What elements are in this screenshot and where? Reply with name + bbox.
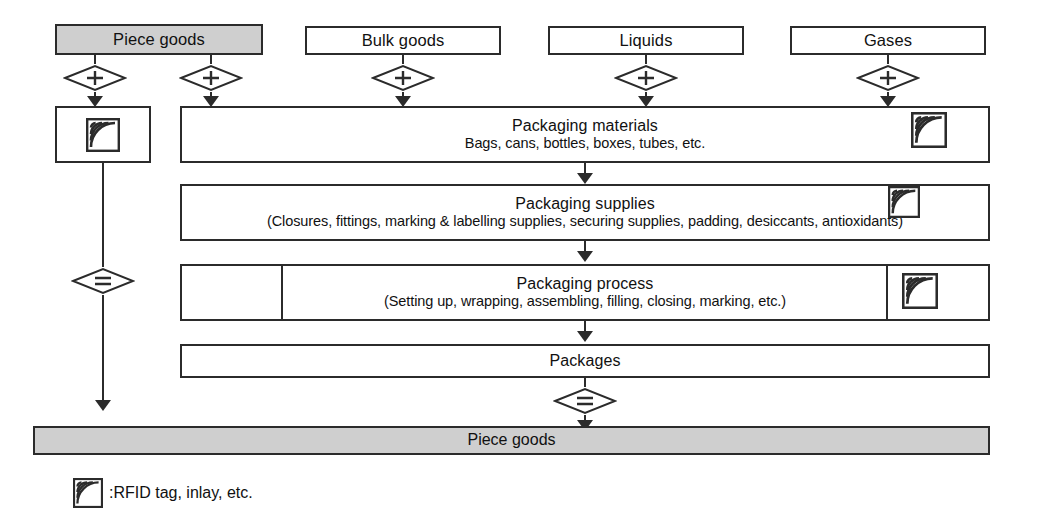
stage-subtitle-packaging-materials: Bags, cans, bottles, boxes, tubes, etc. xyxy=(465,135,705,152)
connector-packages-to-equals xyxy=(584,378,586,387)
stage-title-packaging-supplies: Packaging supplies xyxy=(515,195,655,213)
arrowhead-left-to-result xyxy=(95,400,111,411)
connector-bulk-goods-stub xyxy=(402,55,404,64)
result-bar-piece-goods[interactable]: Piece goods xyxy=(33,426,990,455)
connector-rfid-box-to-equals xyxy=(102,163,104,267)
stage-title-packaging-materials: Packaging materials xyxy=(512,117,658,135)
connector-gases-stub xyxy=(887,55,889,64)
legend-label: :RFID tag, inlay, etc. xyxy=(109,484,253,502)
operator-plus-piece-goods-right xyxy=(179,64,243,92)
stage-box-packaging-materials[interactable]: Packaging materials Bags, cans, bottles,… xyxy=(180,106,990,163)
stage-title-packages: Packages xyxy=(549,352,620,370)
rfid-tag-icon-packaging-process xyxy=(902,273,938,309)
packaging-process-divider-left xyxy=(281,264,283,321)
source-label-bulk-goods: Bulk goods xyxy=(362,31,445,50)
rfid-tag-icon-packaging-supplies xyxy=(888,186,920,218)
stage-title-packaging-process: Packaging process xyxy=(517,275,654,293)
rfid-tag-box[interactable] xyxy=(55,106,151,163)
source-box-liquids[interactable]: Liquids xyxy=(548,26,744,55)
source-box-piece-goods[interactable]: Piece goods xyxy=(55,24,263,55)
operator-plus-piece-goods-left xyxy=(63,64,127,92)
rfid-tag-icon xyxy=(86,118,120,152)
connector-piece-goods-right-stub xyxy=(210,55,212,64)
stage-box-packaging-process[interactable]: Packaging process (Setting up, wrapping,… xyxy=(180,264,990,321)
connector-liquids-stub xyxy=(645,55,647,64)
arrowhead-materials-to-supplies xyxy=(577,173,593,184)
source-box-gases[interactable]: Gases xyxy=(790,26,986,55)
stage-subtitle-packaging-process: (Setting up, wrapping, assembling, filli… xyxy=(384,293,786,310)
source-label-piece-goods: Piece goods xyxy=(113,30,205,49)
source-label-gases: Gases xyxy=(864,31,912,50)
source-label-liquids: Liquids xyxy=(620,31,673,50)
legend: :RFID tag, inlay, etc. xyxy=(73,478,253,508)
arrowhead-process-to-packages xyxy=(577,331,593,342)
operator-plus-bulk-goods xyxy=(371,64,435,92)
source-box-bulk-goods[interactable]: Bulk goods xyxy=(305,26,501,55)
rfid-tag-icon-legend xyxy=(73,478,103,508)
connector-piece-goods-left-stub xyxy=(94,55,96,64)
result-label-piece-goods: Piece goods xyxy=(467,431,555,449)
operator-equals-left xyxy=(71,267,135,295)
diagram-canvas: Piece goods Bulk goods Liquids Gases xyxy=(0,0,1043,515)
operator-plus-gases xyxy=(856,64,920,92)
operator-equals-packages xyxy=(553,387,617,415)
arrowhead-supplies-to-process xyxy=(577,251,593,262)
stage-box-packaging-supplies[interactable]: Packaging supplies (Closures, fittings, … xyxy=(180,184,990,241)
connector-equals-to-result xyxy=(102,295,104,402)
rfid-tag-icon-packaging-materials xyxy=(911,112,947,148)
stage-box-packages[interactable]: Packages xyxy=(180,344,990,378)
stage-subtitle-packaging-supplies: (Closures, fittings, marking & labelling… xyxy=(267,213,903,230)
packaging-process-divider-right xyxy=(886,264,888,321)
operator-plus-liquids xyxy=(614,64,678,92)
